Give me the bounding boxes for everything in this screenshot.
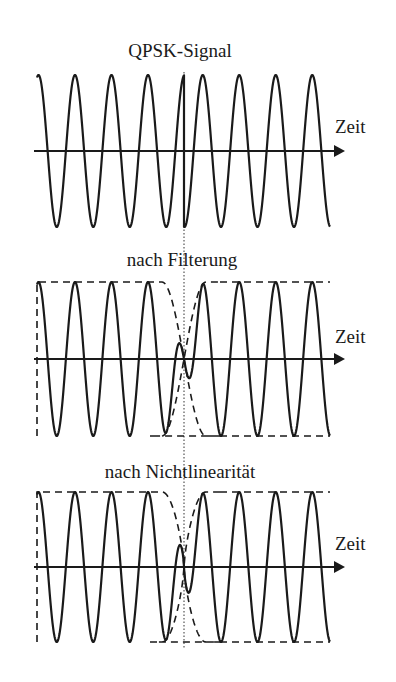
axis-arrow-icon [334, 561, 345, 573]
panel-title: QPSK-Signal [128, 40, 231, 61]
panel-title: nach Filterung [127, 249, 238, 270]
axis-label-time: Zeit [335, 116, 366, 137]
axis-arrow-icon [334, 145, 345, 157]
axis-label-time: Zeit [335, 533, 366, 554]
panel-qpsk-signal: QPSK-Signal Zeit [34, 40, 366, 227]
axis-arrow-icon [334, 353, 345, 365]
axis-label-time: Zeit [335, 326, 366, 347]
panel-after-nonlinearity: nach Nichtlinearität Zeit [34, 461, 366, 642]
panel-title: nach Nichtlinearität [105, 461, 256, 482]
panel-after-filtering: nach Filterung Zeit [34, 249, 366, 436]
qpsk-figure: QPSK-Signal Zeit nach Filterung Zeit nac… [0, 0, 396, 682]
